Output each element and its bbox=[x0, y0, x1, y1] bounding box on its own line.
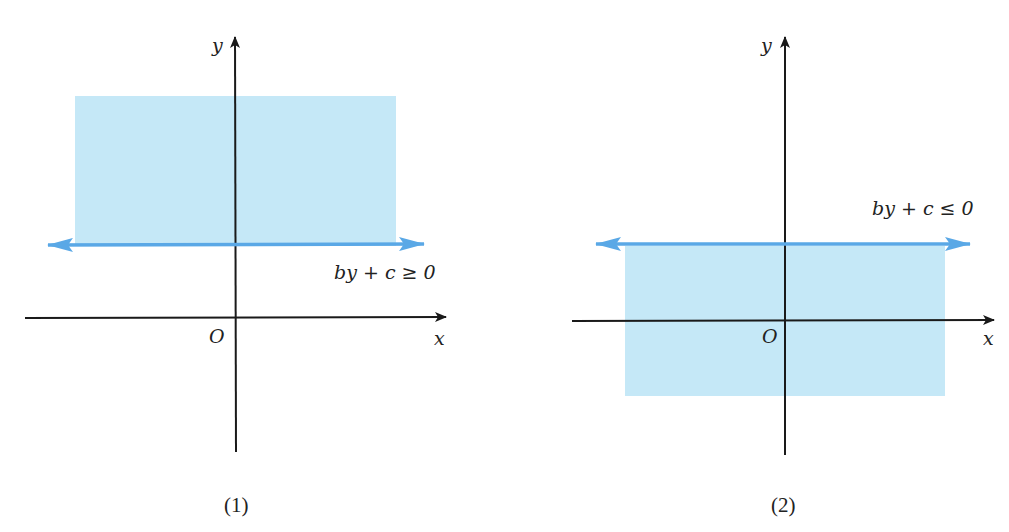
inequality-label: by + c ≤ 0 bbox=[872, 197, 974, 219]
y-axis-label: y bbox=[211, 34, 223, 56]
panel-2: y x O by + c ≤ 0 (2) bbox=[572, 34, 994, 517]
origin-label: O bbox=[209, 325, 225, 347]
y-axis-label: y bbox=[760, 34, 772, 56]
panel-caption: (2) bbox=[771, 493, 796, 517]
inequality-label: by + c ≥ 0 bbox=[334, 261, 436, 283]
x-axis-label: x bbox=[434, 327, 445, 349]
panel-caption: (1) bbox=[224, 493, 249, 517]
x-axis bbox=[572, 320, 994, 321]
figure-canvas: y x O by + c ≥ 0 (1) y x O by + c ≤ 0 (2… bbox=[0, 0, 1009, 532]
x-axis-label: x bbox=[983, 327, 994, 349]
panel-1: y x O by + c ≥ 0 (1) bbox=[25, 34, 446, 517]
boundary-line bbox=[48, 244, 424, 245]
origin-label: O bbox=[762, 325, 778, 347]
